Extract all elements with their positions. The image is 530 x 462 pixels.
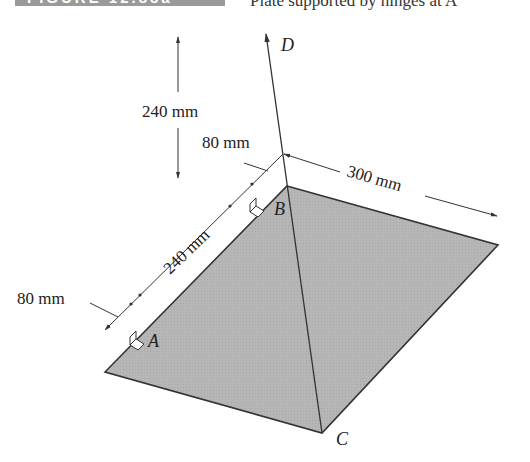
dim-vertical-height: 240 mm [142,102,198,121]
width-dim-arrow-left [284,154,340,172]
point-label-b: B [274,199,285,219]
dim-plate-width: 300 mm [345,162,404,196]
offset-bottom-leader [90,303,118,317]
dim-edge-offset-top: 80 mm [202,133,250,152]
offset-top-leader [244,163,268,171]
dim-edge-offset-bottom: 80 mm [17,289,65,308]
plate-diagram: D B A C 240 mm 80 mm 80 mm 300 mm 240 mm [0,0,530,462]
point-label-d: D [280,35,294,55]
point-label-a: A [147,331,160,351]
width-dim-arrow-right [425,196,497,216]
point-label-c: C [336,429,349,449]
plate [105,186,498,433]
